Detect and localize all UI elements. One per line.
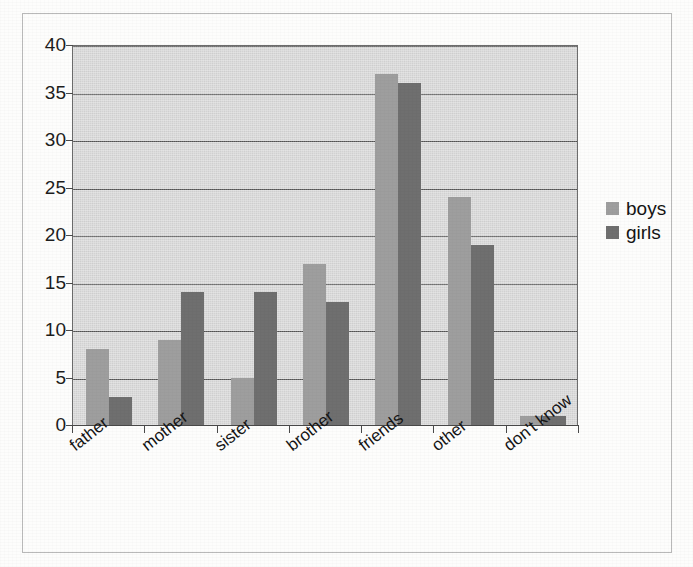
bar-girls-sister bbox=[254, 292, 277, 425]
y-tick-label-15: 15 bbox=[20, 273, 66, 292]
x-tick-mark-0 bbox=[72, 425, 73, 433]
y-tick-label-10: 10 bbox=[20, 320, 66, 339]
legend-item-boys: boys bbox=[606, 196, 666, 220]
y-tick-mark-30 bbox=[66, 140, 73, 141]
y-tick-label-30: 30 bbox=[20, 130, 66, 149]
y-axis-labels: 0510152025303540 bbox=[14, 0, 66, 567]
bar-girls-other bbox=[471, 245, 494, 426]
x-tick-mark-1 bbox=[144, 425, 145, 433]
boys-swatch-icon bbox=[606, 202, 619, 215]
x-tick-mark-3 bbox=[289, 425, 290, 433]
y-tick-mark-5 bbox=[66, 378, 73, 379]
gridline-35 bbox=[73, 94, 577, 95]
bar-girls-mother bbox=[181, 292, 204, 425]
y-tick-label-20: 20 bbox=[20, 225, 66, 244]
y-tick-label-5: 5 bbox=[20, 368, 66, 387]
x-tick-mark-2 bbox=[217, 425, 218, 433]
bar-boys-other bbox=[448, 197, 471, 425]
chart-screenshot: 0510152025303540 fathermothersisterbroth… bbox=[0, 0, 693, 567]
y-tick-mark-15 bbox=[66, 283, 73, 284]
legend-label-girls: girls bbox=[626, 223, 661, 242]
x-tick-mark-4 bbox=[361, 425, 362, 433]
bar-boys-friends bbox=[375, 74, 398, 426]
y-tick-label-0: 0 bbox=[20, 415, 66, 434]
y-tick-mark-35 bbox=[66, 93, 73, 94]
legend: boysgirls bbox=[606, 196, 666, 244]
y-tick-mark-20 bbox=[66, 235, 73, 236]
bar-girls-friends bbox=[398, 83, 421, 425]
y-tick-label-35: 35 bbox=[20, 83, 66, 102]
legend-label-boys: boys bbox=[626, 199, 666, 218]
bar-boys-brother bbox=[303, 264, 326, 426]
y-tick-mark-10 bbox=[66, 330, 73, 331]
gridline-30 bbox=[73, 141, 577, 142]
gridline-25 bbox=[73, 189, 577, 190]
bar-girls-brother bbox=[326, 302, 349, 426]
bar-girls-father bbox=[109, 397, 132, 426]
legend-item-girls: girls bbox=[606, 220, 666, 244]
gridline-20 bbox=[73, 236, 577, 237]
x-tick-mark-7 bbox=[578, 425, 579, 433]
x-tick-mark-6 bbox=[506, 425, 507, 433]
girls-swatch-icon bbox=[606, 226, 619, 239]
y-tick-mark-25 bbox=[66, 188, 73, 189]
y-tick-mark-40 bbox=[66, 45, 73, 46]
gridline-40 bbox=[73, 46, 577, 47]
plot-area bbox=[72, 45, 578, 425]
y-tick-label-25: 25 bbox=[20, 178, 66, 197]
y-tick-mark-0 bbox=[66, 425, 73, 426]
x-tick-mark-5 bbox=[433, 425, 434, 433]
y-tick-label-40: 40 bbox=[20, 35, 66, 54]
